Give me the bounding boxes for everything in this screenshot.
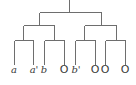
leaf-label-a: a — [11, 64, 17, 76]
leaf-label-empty: O — [60, 64, 69, 76]
leaf-label-b-prime: b' — [71, 64, 80, 76]
leaf-label-empty: O — [91, 64, 100, 76]
leaf-label-b: b — [41, 64, 47, 76]
leaf-label-empty: O — [101, 64, 110, 76]
leaf-label-a-prime: a' — [30, 64, 39, 76]
leaf-label-empty: O — [121, 64, 130, 76]
